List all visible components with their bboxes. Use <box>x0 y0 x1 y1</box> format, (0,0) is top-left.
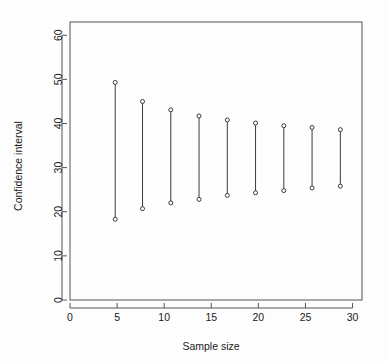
lower-limit-marker <box>225 193 229 197</box>
upper-limit-marker <box>141 99 145 103</box>
upper-limit-marker <box>113 80 117 84</box>
y-axis-tick-label: 40 <box>52 117 64 129</box>
upper-limit-marker <box>225 118 229 122</box>
lower-limit-marker <box>310 186 314 190</box>
x-axis-tick-label: 20 <box>253 311 265 323</box>
lower-limit-marker <box>282 189 286 193</box>
confidence-interval-scatter-plot: 0102030405060 051015202530 Sample size C… <box>0 0 389 362</box>
upper-limit-marker <box>282 124 286 128</box>
x-axis-tick-label: 25 <box>300 311 312 323</box>
upper-limit-marker <box>254 121 258 125</box>
lower-limit-marker <box>113 217 117 221</box>
upper-limit-marker <box>197 114 201 118</box>
chart-figure: 0102030405060 051015202530 Sample size C… <box>0 0 389 362</box>
lower-limit-marker <box>197 197 201 201</box>
lower-limit-marker <box>141 207 145 211</box>
y-axis-tick-label: 20 <box>52 206 64 218</box>
lower-limit-marker <box>169 201 173 205</box>
upper-limit-marker <box>169 108 173 112</box>
upper-limit-marker <box>310 125 314 129</box>
x-axis-tick-label: 0 <box>67 311 73 323</box>
y-axis-tick-label: 60 <box>52 29 64 41</box>
x-axis-title: Sample size <box>182 340 239 352</box>
y-axis-tick-label: 10 <box>52 250 64 262</box>
y-axis-tick-label: 30 <box>52 162 64 174</box>
x-axis-tick-label: 5 <box>114 311 120 323</box>
y-axis-tick-label: 0 <box>52 297 64 303</box>
lower-limit-marker <box>254 191 258 195</box>
lower-limit-marker <box>338 184 342 188</box>
y-axis-tick-label: 50 <box>52 73 64 85</box>
y-axis-title: Confidence interval <box>12 121 24 211</box>
x-axis-tick-label: 30 <box>347 311 359 323</box>
x-axis-tick-label: 10 <box>158 311 170 323</box>
upper-limit-marker <box>338 128 342 132</box>
x-axis-tick-label: 15 <box>205 311 217 323</box>
